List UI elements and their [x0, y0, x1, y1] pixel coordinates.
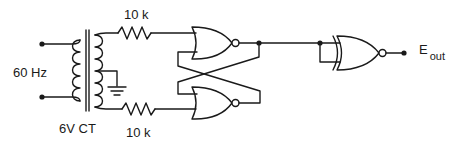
nor-gate-bottom-bubble: [232, 100, 239, 107]
transformer-label: 6V CT: [59, 121, 96, 136]
resistor-bottom-zigzag: [122, 103, 155, 115]
resistor-top-label: 10 k: [124, 7, 149, 22]
resistor-top-wire-in: [95, 33, 118, 35]
frequency-label: 60 Hz: [13, 65, 47, 80]
junction-dot-latch: [256, 40, 261, 45]
cross-coupling: [178, 40, 320, 103]
nor-gate-bottom: [192, 87, 239, 119]
circuit-diagram: 60 Hz 6V CT 10 k 10 k: [0, 0, 465, 144]
output-label-sub: out: [430, 50, 445, 62]
resistor-top-zigzag: [118, 27, 151, 39]
xnor-gate-input-curve: [333, 36, 338, 70]
nor-gate-top-body: [192, 27, 232, 59]
output-label-main: E: [419, 42, 428, 57]
nor-gate-top: [192, 27, 239, 59]
xnor-gate-body: [337, 36, 379, 70]
nor-gate-top-bubble: [232, 40, 239, 47]
nor-gate-bottom-body: [192, 87, 232, 119]
xnor-gate-output: [317, 36, 406, 70]
primary-coil: [73, 40, 81, 101]
resistor-top: [95, 27, 196, 39]
resistor-bottom: [95, 103, 196, 115]
xnor-gate-bubble: [379, 50, 386, 57]
resistor-bottom-wire-in: [95, 107, 122, 109]
output-label: Eout: [419, 42, 445, 62]
resistor-bottom-label: 10 k: [126, 125, 151, 140]
output-terminal: [401, 50, 406, 55]
